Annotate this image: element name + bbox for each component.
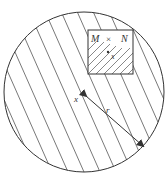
label-inner-x: x — [110, 52, 115, 61]
label-center-x: x — [73, 94, 78, 104]
circle-hatching — [0, 0, 168, 181]
diagram-canvas: M × N x x r — [0, 0, 168, 181]
inner-point — [107, 51, 109, 53]
label-times: × — [106, 34, 111, 44]
label-M: M — [90, 33, 100, 44]
disk-boundary — [4, 12, 164, 172]
radius-arrow — [86, 96, 143, 146]
label-N: N — [120, 33, 129, 44]
label-r: r — [106, 105, 110, 115]
